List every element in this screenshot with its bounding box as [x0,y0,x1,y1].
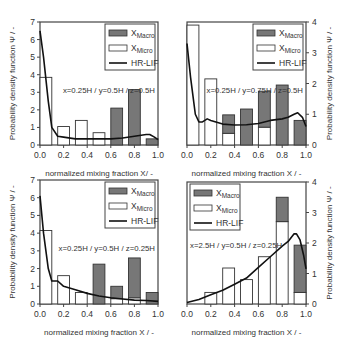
y-tick-label: 1 [312,269,317,279]
x-tick-label: 0.2 [205,309,217,319]
bar-micro [75,120,87,145]
y-tick-label: 3 [312,208,317,218]
y-tick-label: 5 [30,52,35,62]
x-tick-label: 0.6 [105,309,117,319]
y-axis-label: Probability density function Ψ / - [325,26,334,140]
bar-micro [40,230,52,304]
y-tick-label: 1 [312,109,317,119]
bar-macro [93,264,105,304]
x-tick-label: 0.0 [34,309,46,319]
y-tick-label: 4 [30,70,35,80]
y-tick-label: 7 [30,175,35,185]
x-tick-label: 0.4 [81,150,93,160]
y-tick-label: 5 [30,210,35,220]
chart-panel-bottom-right: 0.00.20.40.60.81.001234normalized mixing… [181,177,334,337]
y-tick-label: 2 [312,238,317,248]
x-tick-label: 0.4 [81,309,93,319]
y-tick-label: 0 [30,299,35,309]
legend: XMacroXMicroHR-LIF [190,184,243,230]
x-tick-label: 0.2 [205,150,217,160]
y-axis-label: Probability density function Ψ / - [8,185,17,299]
x-tick-label: 0.6 [252,309,264,319]
legend-micro-swatch [257,45,275,51]
x-tick-label: 0.0 [181,309,193,319]
legend-line-label: HR-LIF [279,58,306,68]
y-tick-label: 1 [30,281,35,291]
x-tick-label: 0.2 [58,150,70,160]
legend: XMacroXMicroHR-LIF [253,24,306,70]
y-tick-label: 0 [30,140,35,150]
x-tick-label: 0.8 [128,150,140,160]
chart-panel-bottom-left: 0.00.20.40.60.81.001234567normalized mix… [8,175,164,337]
position-annotation: x=0.25H / y=0.5H / z=0.25H [59,244,155,253]
y-tick-label: 0 [312,140,317,150]
x-tick-label: 1.0 [152,150,164,160]
bar-macro [111,286,123,298]
bar-micro [276,222,288,304]
y-tick-label: 6 [30,193,35,203]
legend-micro-swatch [194,205,212,211]
x-axis-label: normalized mixing fraction X / - [192,328,302,337]
x-tick-label: 0.2 [58,309,70,319]
legend-line-label: HR-LIF [131,58,158,68]
y-tick-label: 2 [312,79,317,89]
y-tick-label: 4 [312,177,317,187]
x-tick-label: 0.4 [229,309,241,319]
legend-macro-swatch [194,190,212,196]
x-tick-label: 0.8 [128,309,140,319]
x-tick-label: 0.8 [276,150,288,160]
chart-panel-top-right: 0.00.20.40.60.81.001234normalized mixing… [181,17,334,178]
x-tick-label: 0.0 [181,150,193,160]
legend-macro-swatch [109,188,127,194]
y-tick-label: 6 [30,35,35,45]
bar-macro [241,109,253,145]
y-tick-label: 3 [312,48,317,58]
bar-micro [223,133,235,145]
y-axis-label: Probability density function Ψ / - [325,186,334,300]
legend-line-label: HR-LIF [131,216,158,226]
bar-micro [75,292,87,304]
bar-macro [129,258,141,298]
bar-micro [58,276,70,304]
bar-macro [146,139,158,145]
y-tick-label: 4 [312,17,317,27]
y-tick-label: 2 [30,264,35,274]
y-tick-label: 3 [30,246,35,256]
y-tick-label: 2 [30,105,35,115]
legend: XMacroXMicroHR-LIF [105,24,158,70]
y-tick-label: 7 [30,17,35,27]
position-annotation: x=2.5H / y=0.5H / z=0.25H [190,241,282,250]
legend-macro-swatch [109,30,127,36]
x-tick-label: 1.0 [300,309,312,319]
chart-figure: 0.00.20.40.60.81.001234567normalized mix… [0,0,348,350]
bar-micro [258,257,270,304]
position-annotation: x=0.25H / y=0.75H / z=0.5H [207,86,303,95]
x-tick-label: 1.0 [300,150,312,160]
legend: XMacroXMicroHR-LIF [105,182,158,228]
x-axis-label: normalized mixing fraction X / - [44,328,154,337]
legend-micro-swatch [109,203,127,209]
chart-panel-top-left: 0.00.20.40.60.81.001234567normalized mix… [8,17,164,178]
legend-macro-swatch [257,30,275,36]
y-axis-label: Probability density function Ψ / - [8,26,17,140]
bar-micro [241,280,253,304]
legend-line-label: HR-LIF [216,218,243,228]
y-tick-label: 3 [30,87,35,97]
y-tick-label: 1 [30,122,35,132]
y-tick-label: 4 [30,228,35,238]
x-axis-label: normalized mixing fraction X/ - [45,169,153,178]
x-tick-label: 0.6 [252,150,264,160]
bar-micro [187,25,199,145]
bar-micro [258,127,270,145]
legend-micro-swatch [109,45,127,51]
bar-micro [294,292,306,304]
bar-macro [276,197,288,221]
position-annotation: x=0.25H / y=0.5H / z=0.5H [63,86,155,95]
bar-micro [223,268,235,304]
bar-macro [146,292,158,304]
bar-macro [294,245,306,292]
x-tick-label: 0.8 [276,309,288,319]
y-tick-label: 0 [312,299,317,309]
x-tick-label: 0.6 [105,150,117,160]
x-tick-label: 0.0 [34,150,46,160]
